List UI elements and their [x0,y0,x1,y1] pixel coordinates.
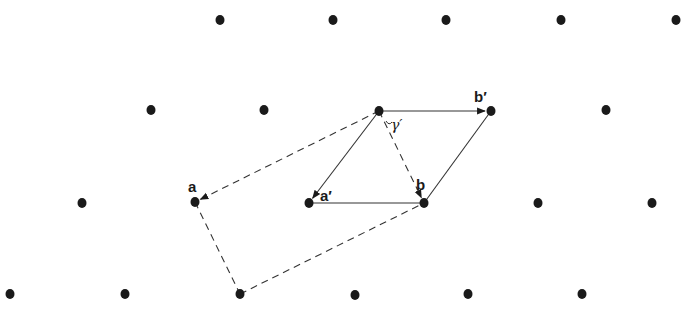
dashed-edge [195,202,240,294]
lattice-point [602,105,611,115]
dashed-edge-a [200,111,379,199]
lattice-point [672,15,681,25]
solid-edge [424,111,491,203]
lattice-point [487,106,496,116]
label-a: a [188,178,197,195]
lattice-svg: a b a′ b′ γ′ [0,0,691,322]
lattice-point [578,289,587,299]
solid-edge-a-prime [313,111,379,198]
lattice-point [121,289,130,299]
lattice-point [648,198,657,208]
lattice-point [260,105,269,115]
lattice-point [78,198,87,208]
lattice-point [420,198,429,208]
lattice-point [557,15,566,25]
lattice-point [375,106,384,116]
label-a-prime: a′ [320,187,332,204]
lattice-point [534,198,543,208]
lattice-point [442,15,451,25]
lattice-point [305,198,314,208]
lattice-point [329,15,338,25]
lattice-point [351,290,360,300]
lattice-diagram: a b a′ b′ γ′ [0,0,691,322]
lattice-point [147,105,156,115]
lattice-point [236,289,245,299]
label-gamma-prime: γ′ [391,117,403,133]
dashed-edge [240,203,424,294]
label-b: b [416,176,425,193]
lattice-point [6,289,15,299]
lattice-point [464,289,473,299]
lattice-point [216,15,225,25]
label-b-prime: b′ [474,88,487,105]
lattice-point [191,197,200,207]
